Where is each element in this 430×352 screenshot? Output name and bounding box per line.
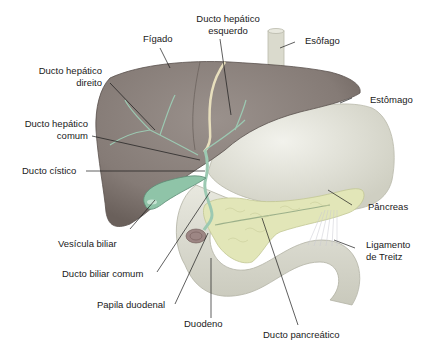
- label-ducto-cistico: Ducto cístico: [22, 165, 76, 176]
- label-esofago: Esôfago: [305, 35, 340, 46]
- label-ducto-hepatico-direito-1: Ducto hepático: [10, 65, 102, 76]
- label-pancreas: Pâncreas: [368, 201, 408, 212]
- label-ducto-pancreatico: Ducto pancreático: [263, 329, 340, 340]
- label-figado: Fígado: [143, 33, 173, 44]
- label-vesicula-biliar: Vesícula biliar: [58, 238, 117, 249]
- label-ducto-hepatico-comum-2: comum: [0, 130, 88, 141]
- label-duodeno: Duodeno: [184, 318, 223, 329]
- label-ducto-hepatico-esquerdo-1: Ducto hepático: [188, 13, 268, 24]
- label-ducto-hepatico-esquerdo-2: esquerdo: [188, 25, 268, 36]
- anatomy-illustration: [0, 0, 430, 352]
- label-papila-duodenal: Papila duodenal: [97, 299, 165, 310]
- label-ducto-biliar-comum: Ducto biliar comum: [62, 268, 143, 279]
- label-ligamento-treitz-1: Ligamento: [366, 239, 410, 250]
- duodenal-papilla: [186, 229, 206, 243]
- label-ducto-hepatico-comum-1: Ducto hepático: [0, 118, 88, 129]
- label-ducto-hepatico-direito-2: direito: [10, 77, 102, 88]
- label-estomago: Estômago: [370, 94, 413, 105]
- label-ligamento-treitz-2: de Treitz: [366, 251, 402, 262]
